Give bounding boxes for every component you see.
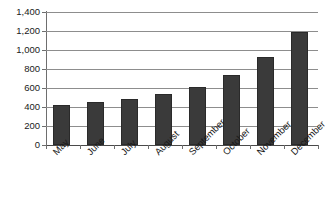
x-tick-mark [46,145,47,149]
y-tick-label: 200 [0,121,40,131]
y-tick-mark [42,12,46,13]
y-tick-label: 0 [0,140,40,150]
y-tick-mark [42,145,46,146]
x-tick-mark [250,145,251,149]
bar-chart-figure: 02004006008001,0001,2001,400 MayJuneJuly… [0,0,326,204]
y-axis-tick-labels: 02004006008001,0001,2001,400 [0,0,42,204]
y-tick-mark [42,88,46,89]
x-axis-category-labels: MayJuneJulyAugustSeptemberOctoberNovembe… [46,150,326,204]
y-tick-mark [42,31,46,32]
y-tick-label: 1,400 [0,7,40,17]
y-tick-mark [42,50,46,51]
x-tick-mark [318,145,319,149]
y-tick-label: 600 [0,83,40,93]
y-tick-label: 1,200 [0,26,40,36]
x-tick-mark [148,145,149,149]
chart-title-remnant [150,0,230,4]
x-tick-mark [114,145,115,149]
y-tick-mark [42,107,46,108]
y-tick-label: 400 [0,102,40,112]
x-tick-mark [216,145,217,149]
y-tick-mark [42,69,46,70]
x-tick-mark [80,145,81,149]
bar [291,32,308,145]
x-tick-mark [182,145,183,149]
y-tick-mark [42,126,46,127]
y-tick-label: 800 [0,64,40,74]
y-tick-label: 1,000 [0,45,40,55]
x-tick-mark [284,145,285,149]
